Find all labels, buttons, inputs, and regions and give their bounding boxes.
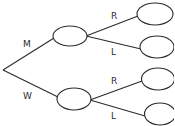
label-m-l: L — [111, 48, 116, 57]
label-m: M — [23, 40, 31, 49]
label-w-l: L — [111, 112, 116, 121]
label-m-r: R — [111, 12, 117, 21]
tree-diagram-canvas — [0, 0, 174, 126]
label-w-r: R — [111, 77, 117, 86]
edge-w-to-l — [90, 100, 145, 116]
node-w-l — [145, 103, 175, 125]
node-m-r — [137, 3, 173, 25]
node-w-r — [142, 68, 175, 90]
node-w — [57, 88, 91, 110]
node-m — [53, 26, 87, 46]
node-m-l — [140, 36, 174, 58]
label-w: W — [23, 92, 32, 101]
tree-diagram: M W R L R L — [0, 0, 174, 126]
